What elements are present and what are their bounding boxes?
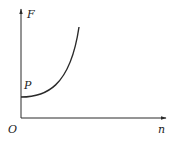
origin-label: O [8, 123, 17, 136]
y-axis-label: F [26, 8, 35, 21]
point-p-label: P [23, 79, 32, 92]
graph-figure: F n O P [0, 0, 175, 142]
x-axis-label: n [158, 123, 165, 136]
